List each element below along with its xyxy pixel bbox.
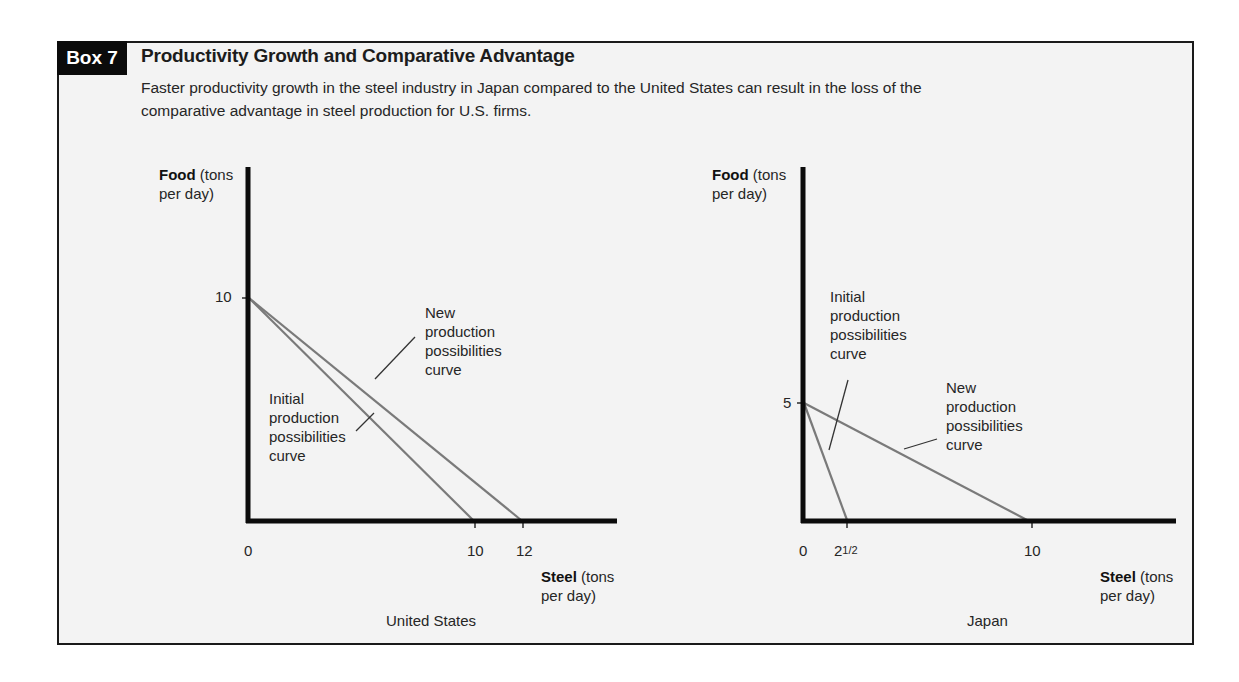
japan-initial-ppc-label-line: production [830, 306, 907, 325]
japan-initial-ppc-label-line: possibilities [830, 325, 907, 344]
japan-initial-ppc-label-line: Initial [830, 287, 907, 306]
japan-x-axis-label-line2: per day) [1100, 586, 1173, 605]
japan-new-ppc-leader [904, 439, 937, 449]
japan-initial-ppc-label-line: curve [830, 344, 907, 363]
japan-x-tick-label-10: 10 [1024, 542, 1041, 559]
japan-y-tick-label: 5 [783, 394, 791, 411]
japan-new-ppc-label: New production possibilities curve [946, 378, 1023, 454]
japan-new-ppc-label-line: curve [946, 435, 1023, 454]
japan-x-axis-label: Steel (tons per day) [1100, 567, 1173, 605]
japan-initial-ppc-line [804, 403, 847, 520]
japan-initial-ppc-label: Initial production possibilities curve [830, 287, 907, 363]
japan-initial-ppc-leader [829, 380, 848, 450]
japan-x-axis-label-bold: Steel [1100, 568, 1136, 585]
japan-chart-caption: Japan [967, 611, 1008, 630]
japan-new-ppc-label-line: possibilities [946, 416, 1023, 435]
japan-x-tick-label-2-5: 21/2 [834, 542, 858, 559]
japan-x-axis-label-unit: (tons [1136, 568, 1174, 585]
japan-plot-area [0, 0, 1239, 682]
japan-x-tick-fraction: 1/2 [842, 544, 857, 556]
japan-new-ppc-label-line: production [946, 397, 1023, 416]
japan-new-ppc-label-line: New [946, 378, 1023, 397]
japan-origin-label: 0 [799, 542, 807, 559]
